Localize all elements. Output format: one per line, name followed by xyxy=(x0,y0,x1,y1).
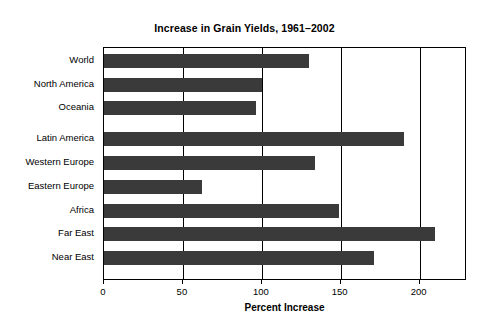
category-label: North America xyxy=(0,79,99,89)
bar xyxy=(104,251,374,265)
x-tick-label: 150 xyxy=(320,286,360,297)
value-axis-ticks: 050100150200 xyxy=(0,280,489,300)
bar xyxy=(104,54,309,68)
x-tick-mark xyxy=(419,280,420,284)
chart-title: Increase in Grain Yields, 1961–2002 xyxy=(0,22,489,34)
category-label: Near East xyxy=(0,252,99,262)
plot-area xyxy=(103,47,466,280)
bar xyxy=(104,101,256,115)
bar xyxy=(104,227,435,241)
bar xyxy=(104,156,315,170)
category-label: Far East xyxy=(0,228,99,238)
category-label: Oceania xyxy=(0,102,99,112)
x-tick-label: 100 xyxy=(241,286,281,297)
bar xyxy=(104,204,339,218)
category-label: Africa xyxy=(0,205,99,215)
x-tick-label: 0 xyxy=(83,286,123,297)
bar xyxy=(104,132,404,146)
category-label: Latin America xyxy=(0,133,99,143)
bar xyxy=(104,78,262,92)
x-axis-title: Percent Increase xyxy=(103,302,466,313)
x-tick-mark xyxy=(261,280,262,284)
bars-layer xyxy=(104,48,465,279)
x-tick-mark xyxy=(182,280,183,284)
grain-yields-bar-chart: Increase in Grain Yields, 1961–2002 Worl… xyxy=(0,0,489,328)
category-label: Eastern Europe xyxy=(0,181,99,191)
category-label: World xyxy=(0,55,99,65)
x-tick-label: 50 xyxy=(162,286,202,297)
category-axis-labels: WorldNorth AmericaOceaniaLatin AmericaWe… xyxy=(0,47,99,280)
category-label: Western Europe xyxy=(0,157,99,167)
x-tick-label: 200 xyxy=(399,286,439,297)
x-tick-mark xyxy=(103,280,104,284)
bar xyxy=(104,180,202,194)
x-tick-mark xyxy=(340,280,341,284)
